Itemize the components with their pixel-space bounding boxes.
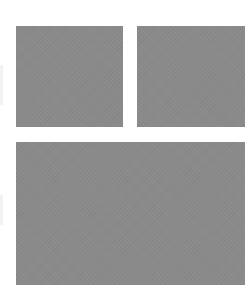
tile-top-left [16,26,123,127]
edge-mark-bottom [0,195,3,225]
canvas [0,0,252,294]
tile-bottom-wide [16,142,245,285]
tile-top-right [137,26,245,127]
edge-mark-top [0,65,3,105]
